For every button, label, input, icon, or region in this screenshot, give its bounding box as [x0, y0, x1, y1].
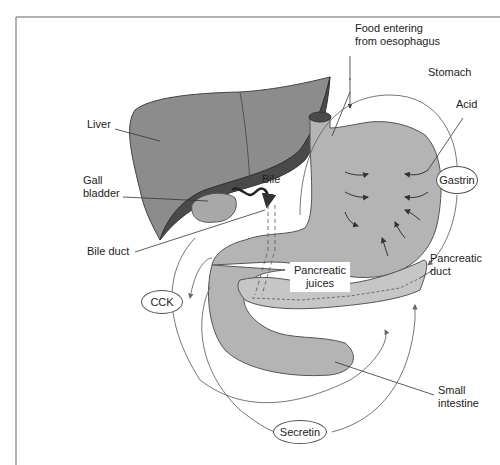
- food-label: Food entering from oesophagus: [355, 22, 440, 48]
- gastrin-oval: Gastrin: [436, 166, 478, 194]
- pancreatic-juices-label: Pancreatic juices: [290, 262, 350, 292]
- bile-flow-arrow: [232, 189, 268, 206]
- bile-duct-label: Bile duct: [87, 245, 129, 258]
- cck-oval: CCK: [141, 290, 183, 314]
- secretin-oval: Secretin: [273, 420, 327, 444]
- acid-label: Acid: [456, 98, 477, 111]
- bile-label: Bile: [262, 173, 280, 186]
- small-intestine-label: Small intestine: [438, 384, 479, 410]
- digestive-diagram: [0, 0, 500, 465]
- liver-label: Liver: [87, 118, 111, 131]
- stomach-label: Stomach: [428, 66, 471, 79]
- pancreatic-duct-label: Pancreatic duct: [430, 252, 482, 278]
- gall-bladder-label: Gall bladder: [83, 174, 120, 200]
- oesophagus-opening: [309, 112, 331, 122]
- diagram-frame: Food entering from oesophagus Stomach Ac…: [0, 0, 500, 465]
